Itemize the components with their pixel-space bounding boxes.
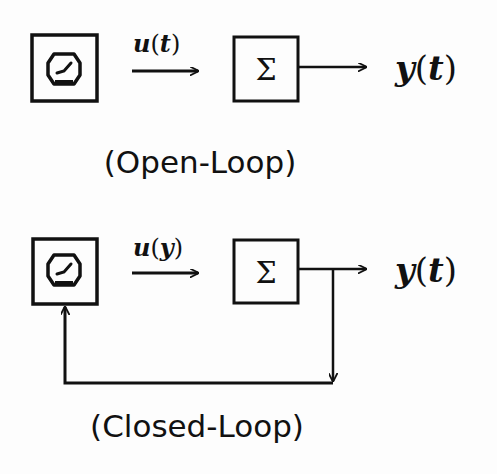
closed-loop-caption: (Closed-Loop) bbox=[90, 408, 304, 444]
summation-block: Σ bbox=[234, 37, 298, 101]
svg-text:y(t): y(t) bbox=[394, 250, 457, 290]
sigma-symbol: Σ bbox=[255, 255, 276, 290]
input-signal-label: u(y) bbox=[133, 233, 183, 262]
summation-block: Σ bbox=[234, 240, 298, 303]
svg-text:y(t): y(t) bbox=[394, 48, 457, 88]
closed-loop-diagram: u(y) Σ y(t) (Closed-Loop) bbox=[33, 233, 457, 444]
clock-icon bbox=[48, 255, 80, 285]
controller-block bbox=[33, 239, 97, 304]
svg-text:u(t): u(t) bbox=[133, 29, 180, 58]
controller-block bbox=[32, 35, 97, 101]
feedback-path bbox=[65, 269, 333, 383]
svg-text:u(y): u(y) bbox=[133, 233, 183, 262]
control-loop-diagram: u(t) Σ y(t) (Open-Loop) u(y) bbox=[0, 0, 497, 474]
input-signal-label: u(t) bbox=[133, 29, 180, 58]
output-signal-label: y(t) bbox=[394, 48, 457, 88]
open-loop-diagram: u(t) Σ y(t) (Open-Loop) bbox=[32, 29, 457, 180]
output-signal-label: y(t) bbox=[394, 250, 457, 290]
open-loop-caption: (Open-Loop) bbox=[104, 144, 297, 180]
sigma-symbol: Σ bbox=[255, 52, 276, 87]
clock-icon bbox=[48, 54, 80, 84]
